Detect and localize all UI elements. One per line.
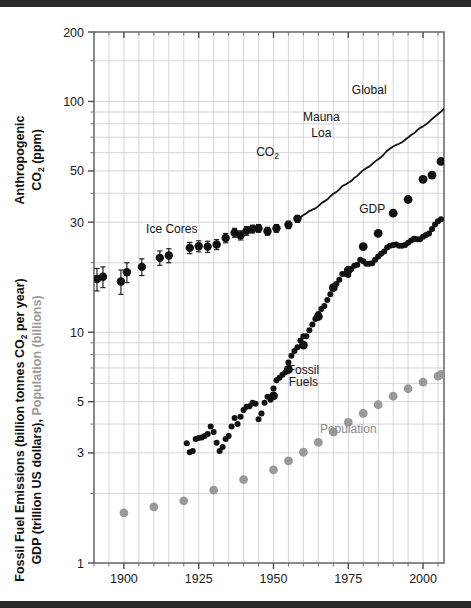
- datapoint-gdp: [428, 171, 437, 180]
- y-tick-label: 10: [70, 326, 84, 340]
- datapoint-fossil-fuels: [336, 277, 342, 283]
- datapoint-population: [419, 378, 428, 387]
- x-tick-label: 1900: [110, 572, 138, 586]
- datapoint-gdp: [314, 312, 323, 321]
- datapoint-population: [120, 508, 129, 517]
- datapoint-fossil-fuels: [232, 415, 238, 421]
- datapoint-population: [209, 486, 218, 495]
- datapoint-ice-cores: [203, 242, 211, 250]
- datapoint-ice-cores: [263, 227, 271, 235]
- y-axis-title-co2-ppm: CO2 (ppm): [30, 129, 46, 191]
- datapoint-fossil-fuels: [184, 440, 190, 446]
- datapoint-ice-cores: [156, 254, 164, 262]
- datapoint-fossil-fuels: [208, 424, 214, 430]
- datapoint-population: [359, 409, 368, 418]
- datapoint-fossil-fuels: [211, 429, 217, 435]
- datapoint-fossil-fuels: [226, 433, 232, 439]
- datapoint-ice-cores: [254, 224, 262, 232]
- datapoint-fossil-fuels: [238, 414, 244, 420]
- datapoint-ice-cores: [195, 242, 203, 250]
- datapoint-fossil-fuels: [303, 333, 309, 339]
- datapoint-ice-cores: [99, 273, 107, 281]
- y-tick-label: 3: [77, 446, 84, 460]
- datapoint-gdp: [344, 266, 353, 275]
- datapoint-fossil-fuels: [327, 291, 333, 297]
- y-tick-label: 5: [77, 395, 84, 409]
- y-axis-title-fossil-fuel-emissions: Fossil Fuel Emissions (billion tonnes CO…: [13, 278, 29, 581]
- datapoint-population: [239, 475, 248, 484]
- mauna-loa-label-1: Mauna: [303, 110, 340, 124]
- population-label: Population: [320, 422, 377, 436]
- datapoint-population: [149, 503, 158, 512]
- datapoint-fossil-fuels: [229, 424, 235, 430]
- ice-cores-label: Ice Cores: [146, 222, 197, 236]
- datapoint-ice-cores: [186, 244, 194, 252]
- y-axis-title-anthropogenic: Anthropogenic: [13, 116, 27, 205]
- global-label: Global: [352, 83, 387, 97]
- y-tick-label: 1: [77, 557, 84, 571]
- datapoint-ice-cores: [138, 263, 146, 271]
- datapoint-fossil-fuels: [190, 448, 196, 454]
- datapoint-ice-cores: [272, 224, 280, 232]
- datapoint-fossil-fuels: [253, 401, 259, 407]
- figure-root: 20010050301053119001925195019752000Ice C…: [0, 0, 471, 608]
- datapoint-ice-cores: [293, 215, 301, 223]
- datapoint-fossil-fuels: [321, 303, 327, 309]
- datapoint-fossil-fuels: [309, 322, 315, 328]
- y-axis-title-gdp-population: GDP (trillion US dollars), Population (b…: [30, 295, 44, 564]
- datapoint-population: [404, 384, 413, 393]
- x-tick-label: 1975: [334, 572, 362, 586]
- datapoint-fossil-fuels: [235, 421, 241, 427]
- datapoint-gdp: [419, 175, 428, 184]
- datapoint-population: [374, 400, 383, 409]
- datapoint-population: [314, 438, 323, 447]
- datapoint-gdp: [374, 229, 383, 238]
- y-tick-label: 30: [70, 216, 84, 230]
- y-tick-label: 200: [63, 26, 84, 40]
- datapoint-fossil-fuels: [259, 410, 265, 416]
- datapoint-ice-cores: [212, 240, 220, 248]
- datapoint-population: [284, 456, 293, 465]
- datapoint-fossil-fuels: [438, 216, 444, 222]
- datapoint-gdp: [359, 242, 368, 251]
- datapoint-ice-cores: [284, 221, 292, 229]
- datapoint-fossil-fuels: [256, 416, 262, 422]
- datapoint-fossil-fuels: [220, 444, 226, 450]
- datapoint-ice-cores: [165, 251, 173, 259]
- datapoint-population: [299, 448, 308, 457]
- fossil-fuels-label-2: Fuels: [289, 375, 318, 389]
- datapoint-gdp: [329, 283, 338, 292]
- mauna-loa-label-2: Loa: [311, 126, 331, 140]
- datapoint-ice-cores: [123, 268, 131, 276]
- datapoint-fossil-fuels: [306, 327, 312, 333]
- datapoint-gdp: [299, 341, 308, 350]
- datapoint-fossil-fuels: [324, 297, 330, 303]
- datapoint-fossil-fuels: [354, 262, 360, 268]
- datapoint-population: [389, 392, 398, 401]
- datapoint-population: [269, 466, 278, 475]
- y-tick-label: 50: [70, 164, 84, 178]
- datapoint-fossil-fuels: [270, 386, 276, 392]
- x-tick-label: 1925: [185, 572, 213, 586]
- datapoint-fossil-fuels: [214, 440, 220, 446]
- x-tick-label: 2000: [409, 572, 437, 586]
- datapoint-gdp: [404, 195, 413, 204]
- datapoint-fossil-fuels: [205, 431, 211, 437]
- gdp-label: GDP: [359, 202, 385, 216]
- datapoint-gdp: [389, 209, 398, 218]
- datapoint-gdp: [269, 391, 278, 400]
- chart-canvas: 20010050301053119001925195019752000Ice C…: [0, 0, 471, 608]
- datapoint-fossil-fuels: [262, 400, 268, 406]
- y-tick-label: 100: [63, 95, 84, 109]
- datapoint-ice-cores: [221, 234, 229, 242]
- datapoint-population: [179, 496, 188, 505]
- x-tick-label: 1950: [260, 572, 288, 586]
- datapoint-ice-cores: [117, 277, 125, 285]
